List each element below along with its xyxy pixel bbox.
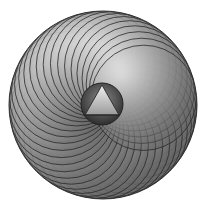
rosette-figure <box>0 0 207 210</box>
